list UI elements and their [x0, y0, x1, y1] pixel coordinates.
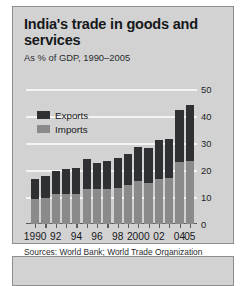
bar-segment-imports — [144, 183, 152, 224]
chart-title: India's trade in goods and services — [24, 16, 224, 48]
x-axis-tick-label: 98 — [112, 231, 123, 242]
bar-2001 — [144, 148, 152, 224]
y-axis-tick-label: 10 — [201, 192, 211, 203]
x-axis-tick — [76, 224, 77, 228]
bar-segment-exports — [134, 147, 142, 181]
chart-legend: Exports Imports — [37, 109, 88, 137]
bar-segment-imports — [155, 179, 163, 224]
bar-segment-exports — [175, 110, 183, 162]
bar-2005 — [186, 105, 194, 224]
x-axis-tick-label: 94 — [71, 231, 82, 242]
x-axis-tick — [169, 224, 170, 228]
bar-2004 — [175, 110, 183, 224]
y-axis-tick-label: 40 — [201, 111, 211, 122]
bar-1998 — [114, 158, 122, 224]
bar-1990 — [31, 179, 39, 224]
bar-segment-imports — [186, 161, 194, 224]
x-axis-tick — [66, 224, 67, 228]
x-axis-tick — [45, 224, 46, 228]
y-axis-tick-label: 50 — [201, 84, 211, 95]
bar-segment-imports — [103, 189, 111, 224]
x-axis-tick — [107, 224, 108, 228]
bar-segment-exports — [124, 154, 132, 185]
bar-segment-exports — [165, 139, 173, 178]
bar-segment-imports — [165, 178, 173, 224]
bar-segment-exports — [144, 148, 152, 183]
bar-segment-exports — [52, 171, 60, 194]
y-axis-tick-label: 0 — [201, 219, 206, 230]
chart-subtitle: As % of GDP, 1990–2005 — [24, 52, 224, 63]
bar-2002 — [155, 140, 163, 224]
bar-segment-exports — [155, 140, 163, 179]
x-axis-tick — [97, 224, 98, 228]
legend-item-exports: Exports — [37, 109, 88, 121]
y-axis-tick-label: 30 — [201, 138, 211, 149]
chart-panel: India's trade in goods and services As %… — [12, 6, 234, 244]
bar-1997 — [103, 161, 111, 224]
bar-2003 — [165, 139, 173, 224]
bar-segment-imports — [41, 198, 49, 224]
x-axis-tick-label: 05 — [184, 231, 195, 242]
bar-1996 — [93, 163, 101, 224]
bar-segment-imports — [72, 194, 80, 224]
bar-segment-imports — [93, 189, 101, 224]
bar-segment-exports — [62, 169, 70, 194]
x-axis-tick — [118, 224, 119, 228]
bar-1992 — [52, 171, 60, 224]
bar-segment-exports — [72, 168, 80, 193]
x-axis-tick — [128, 224, 129, 228]
bar-segment-imports — [134, 181, 142, 224]
bar-segment-exports — [186, 105, 194, 161]
bar-1994 — [72, 168, 80, 224]
x-axis-tick — [190, 224, 191, 228]
x-axis-tick — [149, 224, 150, 228]
bar-segment-exports — [103, 161, 111, 189]
bar-segment-imports — [175, 162, 183, 224]
x-axis-tick — [180, 224, 181, 228]
bar-segment-exports — [114, 158, 122, 187]
bar-1995 — [83, 159, 91, 224]
x-axis-tick — [87, 224, 88, 228]
gridline — [26, 89, 197, 91]
x-axis-tick — [159, 224, 160, 228]
bar-segment-imports — [124, 185, 132, 224]
secondary-panel — [12, 256, 234, 286]
x-axis-tick-label: 1990 — [24, 231, 47, 242]
x-axis-tick-label: 92 — [50, 231, 61, 242]
bar-segment-imports — [62, 194, 70, 224]
bar-segment-imports — [31, 199, 39, 224]
bar-segment-exports — [41, 176, 49, 199]
bar-1991 — [41, 176, 49, 224]
bar-segment-imports — [114, 188, 122, 224]
x-axis-tick-label: 96 — [91, 231, 102, 242]
x-axis-tick — [56, 224, 57, 228]
bar-2000 — [134, 147, 142, 224]
bar-1993 — [62, 169, 70, 224]
x-axis-labels: 1990929496982000020405 — [26, 231, 216, 245]
y-axis-tick-label: 20 — [201, 165, 211, 176]
bar-segment-exports — [31, 179, 39, 199]
bar-segment-exports — [83, 159, 91, 188]
x-axis-tick — [35, 224, 36, 228]
bar-segment-imports — [52, 194, 60, 224]
x-axis-tick-label: 02 — [153, 231, 164, 242]
legend-item-imports: Imports — [37, 123, 88, 135]
bar-segment-exports — [93, 163, 101, 189]
imports-swatch-icon — [37, 125, 50, 133]
x-axis-tick — [138, 224, 139, 228]
exports-swatch-icon — [37, 111, 50, 119]
bar-segment-imports — [83, 189, 91, 224]
bar-1999 — [124, 154, 132, 224]
legend-label-imports: Imports — [55, 124, 88, 135]
x-axis-tick-label: 2000 — [127, 231, 150, 242]
legend-label-exports: Exports — [55, 110, 88, 121]
